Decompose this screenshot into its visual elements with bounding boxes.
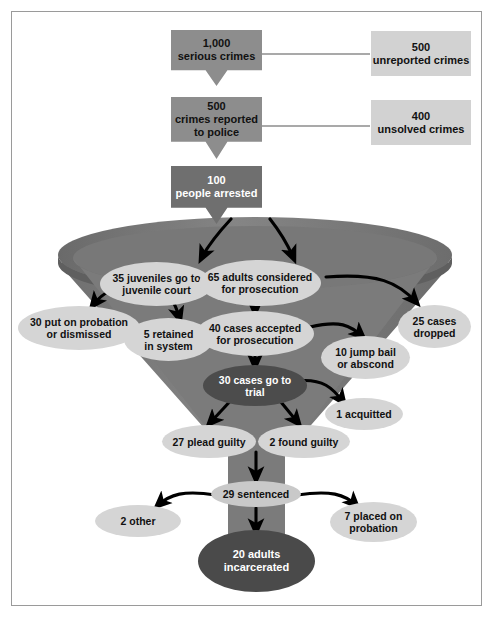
unreported-label: unreported crimes	[373, 54, 470, 67]
found-line1: 2 found guilty	[270, 436, 339, 448]
arrow-sentenced-to-placed	[297, 493, 357, 506]
arrow-sentenced-to-other	[157, 493, 216, 506]
placed-line2: probation	[345, 522, 403, 534]
node-jump-bail: 10 jump bail or abscond	[321, 336, 410, 379]
juveniles-line1: 35 juveniles go to	[112, 272, 200, 284]
node-probation-dismissed: 30 put on probation or dismissed	[18, 306, 140, 350]
incarcerated-line2: incarcerated	[224, 561, 289, 574]
reported-label-line1: crimes reported	[175, 113, 258, 126]
bail-line2: or abscond	[335, 358, 396, 370]
unreported-count: 500	[373, 41, 470, 54]
bail-line1: 10 jump bail	[335, 346, 396, 358]
arrested-label: people arrested	[176, 187, 258, 200]
arrested-count: 100	[176, 174, 258, 187]
node-adults-considered: 65 adults considered for prosecution	[199, 260, 321, 306]
node-acquitted: 1 acquitted	[325, 398, 403, 430]
other-line1: 2 other	[120, 515, 155, 527]
serious-crimes-count: 1,000	[178, 37, 256, 50]
node-cases-trial: 30 cases go to trial	[203, 365, 307, 406]
node-plead-guilty: 27 plead guilty	[162, 425, 256, 458]
node-incarcerated: 20 adults incarcerated	[198, 530, 315, 592]
node-cases-accepted: 40 cases accepted for prosecution	[196, 311, 314, 356]
node-sentenced: 29 sentenced	[211, 481, 301, 507]
serious-crimes-label: serious crimes	[178, 50, 256, 63]
adults-line2: for prosecution	[208, 283, 312, 295]
placed-line1: 7 placed on	[345, 510, 403, 522]
incarcerated-line1: 20 adults	[224, 548, 289, 561]
probation-line2: or dismissed	[30, 328, 128, 340]
trial-line1: 30 cases go to	[219, 374, 291, 386]
node-juveniles-court: 35 juveniles go to juvenile court	[100, 262, 213, 306]
retained-line1: 5 retained	[144, 328, 194, 340]
unsolved-label: unsolved crimes	[378, 123, 465, 136]
accepted-line2: for prosecution	[209, 334, 301, 346]
probation-line1: 30 put on probation	[30, 316, 128, 328]
dropped-line2: dropped	[413, 327, 457, 339]
node-other: 2 other	[95, 505, 181, 537]
unsolved-count: 400	[378, 110, 465, 123]
node-found-guilty: 2 found guilty	[258, 425, 350, 458]
reported-count: 500	[175, 100, 258, 113]
reported-label-line2: to police	[175, 126, 258, 139]
sentenced-line1: 29 sentenced	[223, 488, 290, 500]
plead-line1: 27 plead guilty	[173, 436, 246, 448]
node-placed-probation: 7 placed on probation	[330, 502, 417, 542]
trial-line2: trial	[219, 386, 291, 398]
box-unreported-crimes: 500 unreported crimes	[371, 31, 471, 76]
accepted-line1: 40 cases accepted	[209, 322, 301, 334]
dropped-line1: 25 cases	[413, 315, 457, 327]
acquitted-line1: 1 acquitted	[336, 408, 391, 420]
box-unsolved-crimes: 400 unsolved crimes	[371, 100, 471, 145]
retained-line2: in system	[144, 340, 194, 352]
node-cases-dropped: 25 cases dropped	[398, 305, 471, 348]
criminal-justice-funnel-figure: 1,000 serious crimes 500 crimes reported…	[0, 0, 494, 617]
juveniles-line2: juvenile court	[112, 284, 200, 296]
adults-line1: 65 adults considered	[208, 271, 312, 283]
